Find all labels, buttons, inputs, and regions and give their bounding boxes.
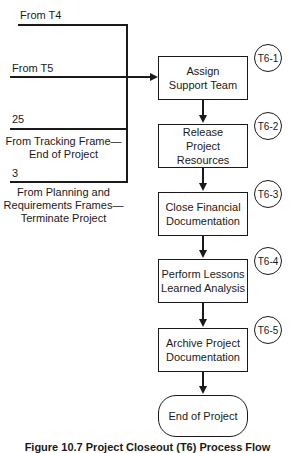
connector-vertical-bus [126,24,128,182]
terminator-end-of-project: End of Project [158,395,248,437]
input-label-tracking: From Tracking Frame— End of Project [0,135,127,161]
step-id-badge: T6-3 [254,180,282,208]
process-box-assign-support-team: Assign Support Team [158,56,248,100]
arrow-down-icon [199,386,207,394]
process-box-archive-project-documentation: Archive Project Documentation [158,328,248,372]
step-id-label: T6-2 [258,121,279,132]
process-label: Close Financial Documentation [165,200,240,228]
step-id-badge: T6-1 [254,44,282,72]
input-label-t5: From T5 [12,62,53,75]
connector-2-3 [202,168,204,184]
step-id-label: T6-3 [258,189,279,200]
process-label: Release Project Resources [159,125,247,167]
step-id-label: T6-5 [258,325,279,336]
input-number-planning: 3 [12,167,18,180]
input-number-tracking: 25 [12,113,24,126]
arrow-down-icon [199,183,207,191]
connector-3-4 [202,236,204,251]
step-id-label: T6-1 [258,53,279,64]
connector-planning [10,181,128,183]
process-box-perform-lessons-learned: Perform Lessons Learned Analysis [158,259,248,303]
terminator-label: End of Project [168,410,237,422]
arrow-down-icon [199,250,207,258]
input-label-t4: From T4 [20,9,61,22]
process-box-close-financial-documentation: Close Financial Documentation [158,192,248,236]
arrow-down-icon [199,319,207,327]
step-id-badge: T6-5 [254,316,282,344]
step-id-label: T6-4 [258,256,279,267]
process-label: Archive Project Documentation [166,336,240,364]
step-id-badge: T6-2 [254,112,282,140]
connector-5-end [202,372,204,387]
connector-t4 [18,24,128,26]
step-id-badge: T6-4 [254,247,282,275]
input-label-planning: From Planning and Requirements Frames— T… [0,186,127,225]
process-box-release-project-resources: Release Project Resources [158,124,248,168]
process-label: Perform Lessons Learned Analysis [161,267,245,295]
arrow-down-icon [199,115,207,123]
process-label: Assign Support Team [169,64,237,92]
arrow-right-icon [150,73,158,81]
connector-1-2 [202,100,204,116]
connector-4-5 [202,303,204,320]
figure-caption: Figure 10.7 Project Closeout (T6) Proces… [0,441,295,453]
connector-t5 [10,76,150,78]
connector-tracking [10,128,128,130]
